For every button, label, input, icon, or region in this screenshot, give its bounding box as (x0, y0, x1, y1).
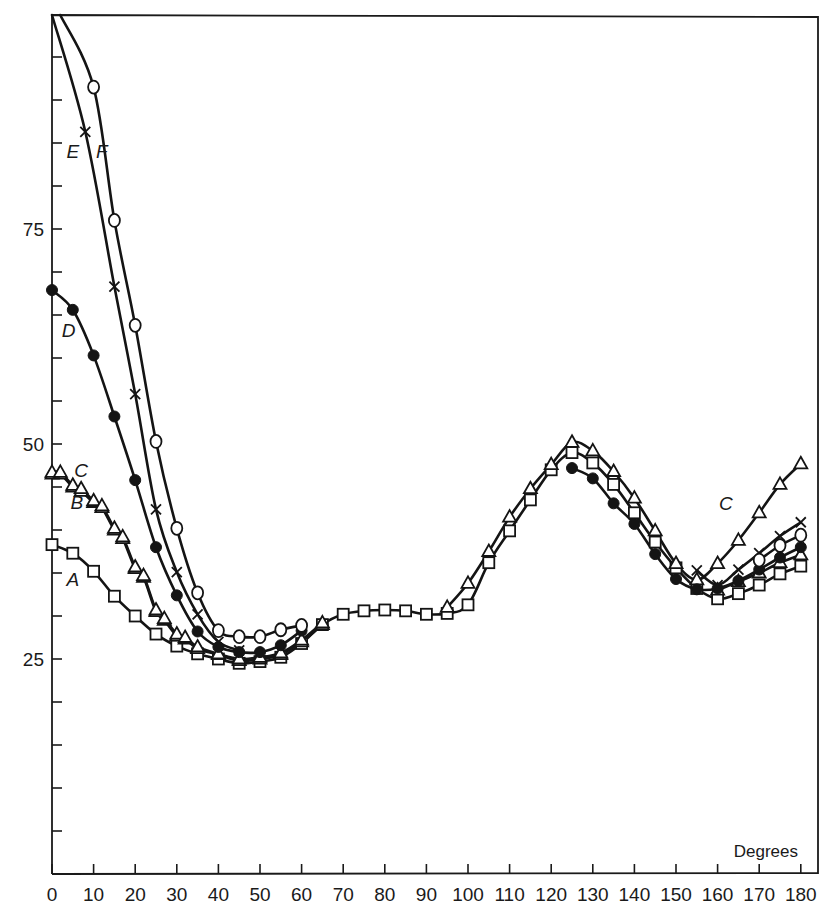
marker-d-dot-icon (255, 647, 266, 658)
marker-d-dot-icon (775, 552, 786, 563)
marker-a-square-icon (67, 548, 78, 559)
marker-d-dot-icon (130, 475, 141, 486)
marker-a-square-icon (151, 629, 162, 640)
marker-d-dot-icon (192, 626, 203, 637)
curve-e (52, 15, 239, 650)
marker-d-dot-icon (151, 542, 162, 553)
marker-a-square-icon (650, 537, 661, 548)
marker-d-dot-icon (109, 411, 120, 422)
x-tick-label: 140 (619, 884, 651, 905)
x-tick-label: 120 (535, 884, 567, 905)
x-tick-label: 20 (125, 884, 146, 905)
y-tick-label: 75 (23, 219, 44, 240)
marker-f-circle-icon (275, 623, 286, 636)
y-tick-label: 50 (23, 434, 44, 455)
marker-f-circle-icon (795, 529, 806, 542)
marker-e-cross-icon (796, 517, 806, 527)
marker-f-circle-icon (213, 624, 224, 637)
curve-d (572, 468, 801, 590)
curve-f (60, 15, 301, 637)
marker-f-circle-icon (255, 630, 266, 643)
marker-a-square-icon (504, 525, 515, 536)
marker-a-square-icon (775, 568, 786, 579)
axis-ticks: 0102030405060708090100110120130140150160… (23, 57, 817, 905)
marker-c-triangle-icon (794, 457, 807, 469)
curve-c (447, 442, 801, 608)
marker-a-square-icon (587, 457, 598, 468)
marker-a-square-icon (567, 447, 578, 458)
marker-a-square-icon (88, 566, 99, 577)
marker-f-circle-icon (171, 522, 182, 535)
marker-f-circle-icon (296, 619, 307, 632)
marker-f-circle-icon (151, 435, 162, 448)
marker-a-square-icon (379, 604, 390, 615)
curve-label-a: A (65, 569, 79, 590)
marker-a-square-icon (483, 557, 494, 568)
x-tick-label: 130 (577, 884, 609, 905)
curve-label-d: D (62, 320, 76, 341)
marker-f-circle-icon (109, 214, 120, 227)
marker-d-dot-icon (629, 518, 640, 529)
marker-a-square-icon (733, 588, 744, 599)
marker-c-triangle-icon (150, 603, 163, 615)
marker-a-square-icon (338, 609, 349, 620)
marker-f-circle-icon (754, 554, 765, 567)
marker-d-dot-icon (650, 549, 661, 560)
marker-f-circle-icon (88, 81, 99, 94)
marker-d-dot-icon (608, 498, 619, 509)
marker-d-dot-icon (67, 304, 78, 315)
marker-d-dot-icon (171, 590, 182, 601)
curve-label-f: F (96, 141, 109, 162)
x-tick-label: 10 (83, 884, 104, 905)
marker-d-dot-icon (47, 285, 58, 296)
x-tick-label: 150 (660, 884, 692, 905)
marker-d-dot-icon (795, 542, 806, 553)
x-tick-label: 40 (208, 884, 229, 905)
x-tick-label: 100 (452, 884, 484, 905)
marker-a-square-icon (421, 609, 432, 620)
marker-d-dot-icon (234, 647, 245, 658)
x-tick-label: 160 (702, 884, 734, 905)
x-tick-label: 180 (785, 884, 817, 905)
curve-label-e: E (66, 141, 79, 162)
marker-a-square-icon (525, 494, 536, 505)
marker-a-square-icon (463, 599, 474, 610)
marker-a-square-icon (359, 605, 370, 616)
curve-label-b: B (71, 492, 84, 513)
curve-label-c-right: C (719, 493, 733, 514)
marker-d-dot-icon (213, 641, 224, 652)
marker-a-square-icon (130, 611, 141, 622)
data-curves (52, 15, 801, 663)
marker-f-circle-icon (130, 319, 141, 332)
line-chart: 0102030405060708090100110120130140150160… (0, 0, 833, 916)
marker-f-circle-icon (234, 630, 245, 643)
marker-e-cross-icon (193, 609, 203, 619)
marker-a-square-icon (400, 605, 411, 616)
data-markers (46, 81, 808, 669)
marker-d-dot-icon (587, 473, 598, 484)
marker-d-dot-icon (671, 574, 682, 585)
marker-d-dot-icon (275, 640, 286, 651)
axes-frame (52, 15, 818, 874)
x-tick-label: 110 (494, 884, 524, 905)
plot-frame (52, 15, 818, 874)
marker-a-square-icon (608, 479, 619, 490)
marker-a-square-icon (109, 591, 120, 602)
x-tick-label: 0 (47, 884, 58, 905)
marker-d-dot-icon (733, 575, 744, 586)
marker-a-square-icon (629, 507, 640, 518)
x-axis-label: Degrees (734, 842, 798, 861)
marker-c-triangle-icon (586, 444, 599, 456)
x-tick-label: 170 (743, 884, 775, 905)
marker-d-dot-icon (567, 463, 578, 474)
marker-a-square-icon (795, 561, 806, 572)
marker-f-circle-icon (192, 586, 203, 599)
x-tick-label: 90 (416, 884, 437, 905)
curve-label-c: C (74, 460, 88, 481)
marker-d-dot-icon (691, 584, 702, 595)
x-tick-label: 50 (249, 884, 270, 905)
x-tick-label: 70 (333, 884, 354, 905)
marker-d-dot-icon (88, 350, 99, 361)
x-tick-label: 80 (374, 884, 395, 905)
marker-c-triangle-icon (129, 560, 142, 572)
